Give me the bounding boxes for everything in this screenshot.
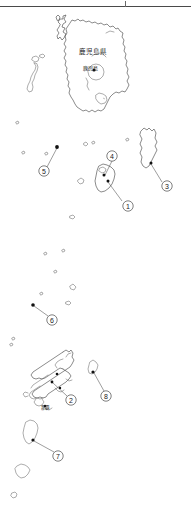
callout-3[interactable]: 3 [162,181,172,191]
callout-2[interactable]: 2 [66,395,76,405]
callout-7[interactable]: 7 [53,451,63,461]
leader-line-5 [47,148,57,167]
callout-1-number: 1 [126,203,130,210]
callout-8[interactable]: 8 [101,391,111,401]
okinawa-marker [51,381,54,384]
callout-1[interactable]: 1 [123,201,133,211]
island-yonaguni [11,492,17,498]
callout-4-number: 4 [110,153,114,160]
callout-leader-lines [34,148,162,452]
kume-marker [91,370,94,373]
yakushima-marker [103,174,106,177]
island-ishigaki [23,420,38,444]
callout-7-number: 7 [56,453,60,460]
label-kagoshima-city: 鹿児島 [83,64,98,71]
island-amami-oshima [140,128,157,168]
callout-2-number: 2 [69,397,73,404]
label-kagoshima-prefecture: 鹿児島県 [79,46,107,56]
callout-3-number: 3 [165,183,169,190]
map-canvas: 1 2 3 4 5 6 7 8 鹿児島県 鹿児島 [0,0,191,505]
callout-5[interactable]: 5 [39,166,49,176]
point-markers [31,68,152,441]
leader-line-6 [34,306,48,316]
leader-line-8 [94,373,104,391]
leader-line-4 [105,161,112,175]
leader-line-7 [34,441,54,452]
label-naha: 那覇 [41,404,49,410]
leader-line-3 [151,164,162,182]
okinawa-secondary-marker [59,387,61,389]
callout-5-number: 5 [42,168,46,175]
island-miyako [15,464,30,478]
ishigaki-marker [31,438,34,441]
callout-8-number: 8 [104,393,108,400]
tanegashima-marker [107,180,110,183]
okinawa-north-marker [56,373,59,376]
map-graphic: 1 2 3 4 5 6 7 8 [0,0,191,505]
amami-marker [150,162,153,165]
callout-6-number: 6 [50,317,54,324]
island-koshikijima [27,54,45,92]
island-yakushima [99,167,106,173]
okinoerabu-marker [31,303,35,307]
leader-line-1 [108,182,122,201]
callout-6[interactable]: 6 [47,315,57,325]
koshikijima-marker [55,145,59,149]
callout-4[interactable]: 4 [107,151,117,161]
